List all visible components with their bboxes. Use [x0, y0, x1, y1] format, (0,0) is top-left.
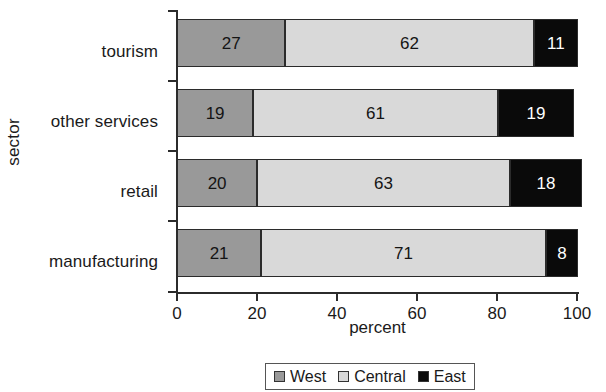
chart-legend: West Central East — [265, 363, 475, 390]
legend-label-central: Central — [354, 369, 406, 385]
legend-label-east: East — [434, 369, 466, 385]
bar-segment-value: 27 — [178, 35, 284, 52]
bar-segment-retail-east[interactable]: 18 — [510, 159, 582, 207]
x-axis-tick — [576, 292, 578, 301]
bar-segment-manufacturing-west[interactable]: 21 — [177, 229, 261, 277]
bar-segment-value: 71 — [262, 245, 545, 262]
bar-segment-other-services-west[interactable]: 19 — [177, 89, 253, 137]
bar-segment-value: 11 — [535, 35, 577, 52]
x-axis-tick — [256, 292, 258, 301]
y-axis-tick — [168, 150, 177, 152]
bar-row-other-services: 19 61 19 — [177, 89, 574, 137]
x-axis-tick — [496, 292, 498, 301]
bar-segment-manufacturing-central[interactable]: 71 — [261, 229, 546, 277]
x-axis-tick — [336, 292, 338, 301]
legend-swatch-icon-central — [338, 371, 349, 382]
bar-segment-value: 19 — [178, 105, 252, 122]
x-axis-line — [176, 292, 579, 294]
bar-segment-value: 63 — [258, 175, 509, 192]
legend-item-central[interactable]: Central — [338, 367, 406, 385]
legend-item-west[interactable]: West — [274, 367, 326, 385]
bar-segment-value: 21 — [178, 245, 260, 262]
bar-row-retail: 20 63 18 — [177, 159, 582, 207]
bar-segment-value: 61 — [254, 105, 497, 122]
bar-segment-other-services-central[interactable]: 61 — [253, 89, 498, 137]
plot-area: 0 20 40 60 80 100 27 62 11 19 61 19 20 6… — [177, 10, 578, 292]
bar-segment-value: 18 — [511, 175, 581, 192]
y-axis-label-other-services: other services — [0, 112, 158, 132]
y-axis-label-manufacturing: manufacturing — [0, 252, 158, 272]
bar-segment-retail-central[interactable]: 63 — [257, 159, 510, 207]
legend-swatch-icon-west — [274, 371, 285, 382]
legend-label-west: West — [290, 369, 326, 385]
y-axis-category-labels: tourism other services retail manufactur… — [0, 10, 166, 292]
bar-row-tourism: 27 62 11 — [177, 19, 578, 67]
x-axis-tick — [176, 292, 178, 301]
bar-segment-value: 8 — [547, 245, 577, 262]
y-axis-tick — [168, 80, 177, 82]
bar-row-manufacturing: 21 71 8 — [177, 229, 578, 277]
y-axis-label-tourism: tourism — [0, 42, 158, 62]
legend-swatch-icon-east — [418, 371, 429, 382]
y-axis-tick — [168, 10, 177, 12]
bar-segment-tourism-east[interactable]: 11 — [534, 19, 578, 67]
x-axis-title: percent — [177, 318, 578, 338]
y-axis-label-retail: retail — [0, 182, 158, 202]
bar-segment-manufacturing-east[interactable]: 8 — [546, 229, 578, 277]
bar-segment-tourism-central[interactable]: 62 — [285, 19, 534, 67]
bar-segment-retail-west[interactable]: 20 — [177, 159, 257, 207]
bar-segment-value: 62 — [286, 35, 533, 52]
stacked-bar-chart: sector tourism other services retail man… — [0, 0, 606, 392]
x-axis-tick — [416, 292, 418, 301]
bar-segment-tourism-west[interactable]: 27 — [177, 19, 285, 67]
y-axis-tick — [168, 220, 177, 222]
bar-segment-other-services-east[interactable]: 19 — [498, 89, 574, 137]
bar-segment-value: 20 — [178, 175, 256, 192]
bar-segment-value: 19 — [499, 105, 573, 122]
legend-item-east[interactable]: East — [418, 367, 466, 385]
